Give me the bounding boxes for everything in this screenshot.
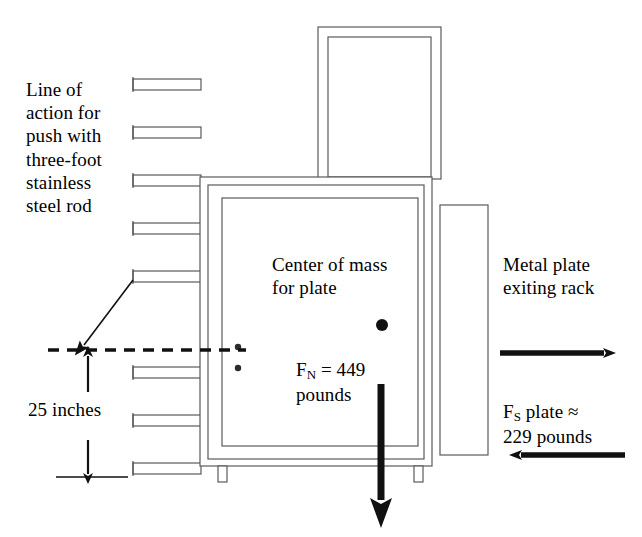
top-plate	[318, 27, 441, 179]
rack-shelf	[133, 413, 201, 428]
cabinet-leg	[218, 466, 227, 482]
leader-line	[84, 280, 133, 345]
force-normal-subscript: N	[307, 367, 316, 382]
exit-plate	[440, 205, 488, 455]
cabinet-inner-panel	[222, 198, 418, 446]
label-metal-plate-exiting: Metal plate exiting rack	[503, 253, 633, 299]
center-of-mass-dot	[376, 319, 388, 331]
force-normal-symbol: F	[296, 359, 307, 380]
label-center-of-mass: Center of mass for plate	[272, 253, 442, 299]
label-dimension-25-inches: 25 inches	[28, 398, 101, 421]
rack-shelf	[133, 221, 201, 236]
rack-shelf	[133, 461, 201, 476]
force-shear-symbol: F	[503, 401, 514, 422]
cabinet-body	[200, 177, 432, 466]
top-plate-inner	[328, 37, 431, 177]
technical-diagram: Line of action for push with three-foot …	[0, 0, 642, 537]
label-line-of-action: Line of action for push with three-foot …	[26, 78, 146, 217]
rack-shelf	[133, 269, 201, 284]
cabinet-legs	[218, 466, 423, 482]
label-force-normal: FN = 449 pounds	[296, 358, 436, 406]
label-force-shear: FS plate ≈ 229 pounds	[503, 400, 638, 448]
rack-shelf	[133, 365, 201, 380]
cabinet-leg	[414, 466, 423, 482]
hinge-icon	[235, 365, 241, 371]
force-shear-subscript: S	[514, 409, 521, 424]
